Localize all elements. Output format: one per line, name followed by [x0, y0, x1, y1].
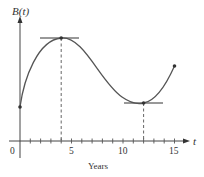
x-axis-title: Years	[88, 161, 109, 171]
end-point	[173, 64, 177, 68]
tick-label-0: 0	[10, 146, 15, 156]
curve-b-of-t	[20, 38, 175, 107]
y-axis-arrow-icon	[18, 16, 23, 23]
chart: B(t) t 0 5 10 15 Years	[0, 0, 204, 177]
min-point	[142, 101, 146, 105]
max-point	[59, 36, 63, 40]
y-axis-label: B(t)	[12, 5, 29, 18]
tick-label-15: 15	[169, 146, 179, 156]
start-point	[18, 105, 22, 109]
tick-label-5: 5	[69, 146, 74, 156]
x-axis-arrow-icon	[183, 139, 190, 144]
tick-label-10: 10	[118, 146, 128, 156]
x-axis-var-label: t	[193, 135, 197, 147]
